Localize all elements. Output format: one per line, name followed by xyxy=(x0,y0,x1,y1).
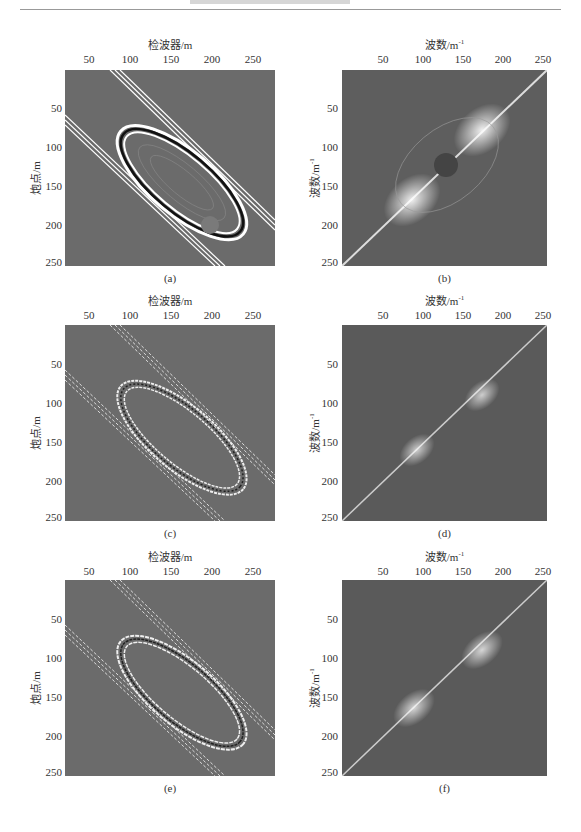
y-tick: 150 xyxy=(314,691,338,703)
x-tick: 150 xyxy=(455,565,472,577)
y-tick: 200 xyxy=(38,219,62,231)
figure-caption: (f) xyxy=(342,782,547,794)
x-axis-title: 检波器/m xyxy=(65,36,275,52)
y-tick: 100 xyxy=(38,652,62,664)
x-tick: 200 xyxy=(495,53,512,65)
x-tick: 50 xyxy=(378,309,389,321)
spectrum-image xyxy=(342,325,547,521)
seismic-image xyxy=(65,580,275,776)
y-tick: 50 xyxy=(314,102,338,114)
x-tick: 100 xyxy=(415,53,432,65)
y-tick: 200 xyxy=(314,219,338,231)
y-tick: 250 xyxy=(314,766,338,778)
x-tick: 50 xyxy=(84,565,95,577)
y-tick: 250 xyxy=(38,256,62,268)
running-header xyxy=(190,0,350,4)
y-tick: 50 xyxy=(38,102,62,114)
y-tick: 50 xyxy=(314,613,338,625)
seismic-image xyxy=(65,70,275,266)
x-tick: 250 xyxy=(245,309,262,321)
x-tick: 100 xyxy=(415,565,432,577)
x-tick: 50 xyxy=(84,309,95,321)
y-tick: 100 xyxy=(314,652,338,664)
x-tick: 150 xyxy=(455,53,472,65)
x-axis-title: 检波器/m xyxy=(65,292,275,308)
x-tick: 250 xyxy=(535,309,552,321)
y-tick: 200 xyxy=(38,730,62,742)
y-tick: 150 xyxy=(38,436,62,448)
x-tick: 100 xyxy=(415,309,432,321)
x-axis-title: 检波器/m xyxy=(65,548,275,564)
y-tick: 100 xyxy=(38,397,62,409)
y-tick: 250 xyxy=(314,511,338,523)
y-tick: 250 xyxy=(38,766,62,778)
x-tick: 50 xyxy=(84,53,95,65)
x-tick: 250 xyxy=(535,565,552,577)
figure-caption: (e) xyxy=(65,782,275,794)
y-tick: 100 xyxy=(38,141,62,153)
x-tick: 200 xyxy=(204,309,221,321)
x-axis-title: 波数/m-1 xyxy=(342,292,547,308)
y-tick: 150 xyxy=(38,691,62,703)
y-tick: 50 xyxy=(314,358,338,370)
x-tick: 100 xyxy=(122,309,139,321)
x-tick: 200 xyxy=(204,565,221,577)
y-tick: 50 xyxy=(38,613,62,625)
x-tick: 250 xyxy=(245,53,262,65)
seismic-image xyxy=(65,325,275,521)
y-tick: 50 xyxy=(38,358,62,370)
spectrum-image xyxy=(342,580,547,776)
header-rule xyxy=(20,9,561,10)
x-tick: 200 xyxy=(495,565,512,577)
x-tick: 250 xyxy=(535,53,552,65)
y-tick: 200 xyxy=(38,475,62,487)
x-tick: 250 xyxy=(245,565,262,577)
y-tick: 150 xyxy=(314,180,338,192)
y-tick: 150 xyxy=(314,436,338,448)
x-tick: 50 xyxy=(378,565,389,577)
x-axis-title: 波数/m-1 xyxy=(342,548,547,564)
x-tick: 200 xyxy=(204,53,221,65)
x-tick: 50 xyxy=(378,53,389,65)
y-tick: 100 xyxy=(314,141,338,153)
x-tick: 200 xyxy=(495,309,512,321)
x-axis-title: 波数/m-1 xyxy=(342,36,547,52)
x-tick: 150 xyxy=(455,309,472,321)
y-tick: 100 xyxy=(314,397,338,409)
spectrum-image xyxy=(342,70,547,266)
x-tick: 150 xyxy=(163,309,180,321)
y-tick: 200 xyxy=(314,730,338,742)
y-tick: 250 xyxy=(38,511,62,523)
figure-caption: (b) xyxy=(342,272,547,284)
figure-caption: (a) xyxy=(65,272,275,284)
figure-caption: (c) xyxy=(65,527,275,539)
y-tick: 250 xyxy=(314,256,338,268)
x-tick: 150 xyxy=(163,53,180,65)
y-tick: 200 xyxy=(314,475,338,487)
x-tick: 100 xyxy=(122,565,139,577)
x-tick: 100 xyxy=(122,53,139,65)
figure-caption: (d) xyxy=(342,527,547,539)
x-tick: 150 xyxy=(163,565,180,577)
y-tick: 150 xyxy=(38,180,62,192)
